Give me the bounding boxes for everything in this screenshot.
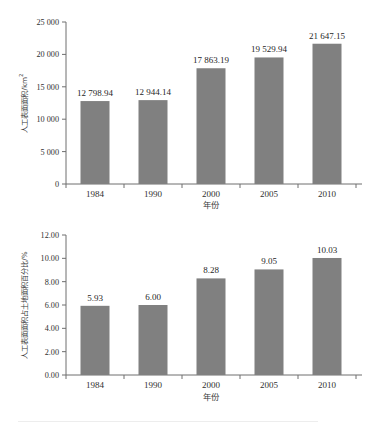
bar xyxy=(197,68,226,184)
y-tick-label: 5 000 xyxy=(41,148,59,157)
bar-value-label: 19 529.94 xyxy=(251,44,288,54)
y-tick-label: 0.00 xyxy=(45,371,59,380)
x-axis-label: 年份 xyxy=(203,392,220,402)
bar-value-label: 10.03 xyxy=(317,245,338,255)
x-tick-label: 2010 xyxy=(318,189,337,199)
x-axis-label: 年份 xyxy=(203,200,220,210)
y-axis-label: 人工表面面积/km2 xyxy=(18,73,28,132)
y-tick-label: 12.00 xyxy=(41,231,59,240)
x-tick-label: 2000 xyxy=(202,380,221,390)
bar xyxy=(139,305,168,375)
bar xyxy=(197,278,226,375)
y-tick-label: 6.00 xyxy=(45,301,59,310)
x-tick-label: 2000 xyxy=(202,189,221,199)
bar-value-label: 12 798.94 xyxy=(77,88,114,98)
bar xyxy=(139,100,168,184)
x-tick-label: 2010 xyxy=(318,380,337,390)
x-tick-label: 1984 xyxy=(86,380,105,390)
y-tick-label: 0 xyxy=(55,180,59,189)
y-tick-label: 25 000 xyxy=(36,18,59,27)
bar-value-label: 12 944.14 xyxy=(135,87,172,97)
scan-artifact-line xyxy=(18,421,318,422)
bar-value-label: 8.28 xyxy=(203,265,219,275)
x-tick-label: 1990 xyxy=(144,380,163,390)
bar-value-label: 6.00 xyxy=(145,292,161,302)
bar-chart-area-svg: 人工表面面积/km205 00010 00015 00020 00025 000… xyxy=(0,0,375,212)
x-tick-label: 1984 xyxy=(86,189,105,199)
bar-value-label: 17 863.19 xyxy=(193,55,230,65)
y-tick-label: 20 000 xyxy=(36,50,59,59)
bar-value-label: 21 647.15 xyxy=(309,31,346,41)
x-tick-label: 2005 xyxy=(260,380,279,390)
bar-chart-percentage-svg: 人工表面面积占土地面积百分比/%0.002.004.006.008.0010.0… xyxy=(0,212,375,425)
x-tick-label: 1990 xyxy=(144,189,163,199)
bar-value-label: 9.05 xyxy=(261,256,277,266)
bar xyxy=(255,57,284,184)
chart-artificial-surface-percentage: 人工表面面积占土地面积百分比/%0.002.004.006.008.0010.0… xyxy=(0,212,375,425)
chart-artificial-surface-area: 人工表面面积/km205 00010 00015 00020 00025 000… xyxy=(0,0,375,212)
y-tick-label: 2.00 xyxy=(45,348,59,357)
bar xyxy=(313,44,342,184)
y-tick-label: 8.00 xyxy=(45,278,59,287)
bar xyxy=(81,101,110,184)
y-tick-label: 10 000 xyxy=(36,115,59,124)
bar xyxy=(81,306,110,375)
y-tick-label: 15 000 xyxy=(36,83,59,92)
bar xyxy=(313,258,342,375)
x-tick-label: 2005 xyxy=(260,189,279,199)
y-axis-label: 人工表面面积占土地面积百分比/% xyxy=(20,251,29,358)
y-tick-label: 4.00 xyxy=(45,324,59,333)
bar xyxy=(255,269,284,375)
bar-value-label: 5.93 xyxy=(87,293,103,303)
y-tick-label: 10.00 xyxy=(41,254,59,263)
